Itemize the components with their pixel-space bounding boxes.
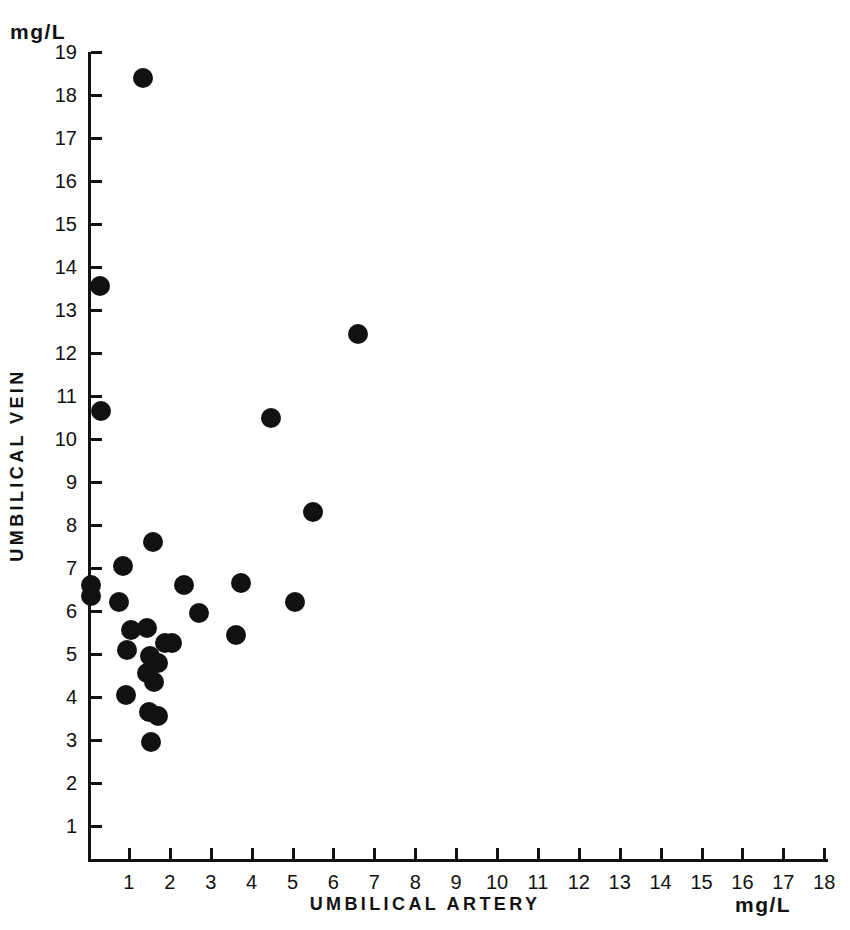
y-tick-label: 5 [66, 643, 77, 666]
y-tick [91, 137, 102, 140]
data-point [90, 276, 110, 296]
x-tick-label: 13 [609, 871, 631, 894]
x-tick-label: 10 [486, 871, 508, 894]
x-tick [578, 848, 581, 859]
data-point [137, 618, 157, 638]
y-tick-label: 1 [66, 815, 77, 838]
y-tick [91, 825, 102, 828]
data-point [303, 502, 323, 522]
y-tick-label: 11 [56, 385, 77, 408]
x-tick [782, 848, 785, 859]
data-point [109, 592, 129, 612]
y-tick-label: 8 [66, 514, 77, 537]
y-tick [91, 223, 102, 226]
x-tick [169, 848, 172, 859]
y-tick-label: 4 [66, 686, 77, 709]
data-point [113, 556, 133, 576]
data-point [81, 586, 101, 606]
y-axis-title: UMBILICAL VEIN [0, 0, 34, 930]
data-point [189, 603, 209, 623]
y-tick [91, 610, 102, 613]
y-tick-label: 10 [55, 428, 77, 451]
x-tick-label: 1 [123, 871, 134, 894]
y-tick [91, 653, 102, 656]
y-tick-label: 6 [66, 600, 77, 623]
x-tick-label: 6 [328, 871, 339, 894]
y-tick-label: 17 [55, 127, 77, 150]
plot-area: 12345678910111213141516171819 1234567891… [88, 52, 828, 862]
y-tick-label: 12 [55, 342, 77, 365]
data-point [148, 706, 168, 726]
x-tick [292, 848, 295, 859]
x-tick [496, 848, 499, 859]
x-tick [251, 848, 254, 859]
y-tick [91, 739, 102, 742]
x-tick [128, 848, 131, 859]
data-point [116, 685, 136, 705]
y-tick-label: 7 [66, 557, 77, 580]
data-point [285, 592, 305, 612]
data-point [231, 573, 251, 593]
y-tick [91, 395, 102, 398]
x-tick [414, 848, 417, 859]
x-tick-label: 5 [287, 871, 298, 894]
x-tick-label: 15 [690, 871, 712, 894]
y-tick-label: 13 [55, 299, 77, 322]
x-tick-label: 16 [731, 871, 753, 894]
scatter-plot-figure: mg/L mg/L UMBILICAL ARTERY UMBILICAL VEI… [0, 0, 850, 930]
y-tick-label: 9 [66, 471, 77, 494]
data-point [133, 68, 153, 88]
y-tick [91, 94, 102, 97]
y-tick-label: 3 [66, 729, 77, 752]
y-tick [91, 180, 102, 183]
x-tick-label: 4 [246, 871, 257, 894]
x-tick-label: 18 [813, 871, 835, 894]
data-point [162, 633, 182, 653]
x-tick-label: 2 [164, 871, 175, 894]
data-point [117, 640, 137, 660]
data-point [143, 532, 163, 552]
x-tick [741, 848, 744, 859]
x-tick [210, 848, 213, 859]
y-tick [91, 266, 102, 269]
x-tick [823, 848, 826, 859]
y-tick-label: 14 [55, 256, 77, 279]
x-tick [537, 848, 540, 859]
y-tick-label: 16 [55, 170, 77, 193]
x-tick-label: 12 [568, 871, 590, 894]
data-point [91, 401, 111, 421]
y-tick-label: 18 [55, 84, 77, 107]
y-tick [91, 567, 102, 570]
y-tick-label: 19 [55, 41, 77, 64]
x-tick [660, 848, 663, 859]
data-point [174, 575, 194, 595]
data-point [348, 324, 368, 344]
x-tick-label: 9 [451, 871, 462, 894]
y-tick [91, 782, 102, 785]
y-tick-label: 2 [66, 772, 77, 795]
x-tick-label: 17 [772, 871, 794, 894]
x-tick-label: 8 [410, 871, 421, 894]
y-tick [91, 438, 102, 441]
y-tick-label: 15 [55, 213, 77, 236]
data-point [226, 625, 246, 645]
x-axis-title: UMBILICAL ARTERY [0, 894, 850, 915]
y-tick [91, 51, 102, 54]
x-tick-label: 14 [649, 871, 671, 894]
y-tick [91, 309, 102, 312]
x-tick [455, 848, 458, 859]
x-tick-label: 11 [528, 871, 549, 894]
x-tick [332, 848, 335, 859]
data-point [141, 732, 161, 752]
x-tick [701, 848, 704, 859]
x-axis-line [88, 859, 828, 862]
x-tick [373, 848, 376, 859]
x-tick [619, 848, 622, 859]
y-tick [91, 481, 102, 484]
data-point [261, 408, 281, 428]
data-point [144, 672, 164, 692]
y-tick [91, 696, 102, 699]
y-tick [91, 352, 102, 355]
y-tick [91, 524, 102, 527]
x-tick-label: 3 [205, 871, 216, 894]
